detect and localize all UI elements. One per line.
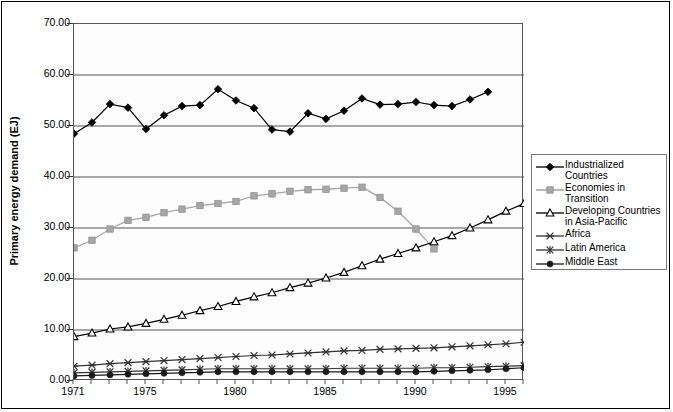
- data-point-filled-circle: [74, 373, 77, 379]
- series-2: [74, 200, 524, 340]
- data-point-filled-circle: [341, 369, 347, 375]
- y-axis-title-label: Primary energy demand (EJ): [8, 116, 20, 265]
- data-point-filled-square: [395, 208, 401, 214]
- legend-label: Middle East: [565, 256, 617, 267]
- data-point-filled-square: [287, 188, 293, 194]
- data-point-filled-square: [431, 246, 437, 252]
- legend-item-0[interactable]: Industrialized Countries: [535, 159, 663, 181]
- data-point-filled-diamond: [340, 107, 348, 115]
- data-point-filled-square: [413, 226, 419, 232]
- data-point-filled-diamond: [376, 101, 384, 109]
- x-axis-tick-labels: 197119751980198519901995: [2, 385, 562, 401]
- y-tick-label: 40.00: [26, 170, 70, 180]
- legend-marker-filled-diamond-icon: [535, 159, 565, 172]
- data-point-filled-diamond: [232, 97, 240, 105]
- x-tick-label: 1980: [215, 385, 255, 397]
- chart-canvas: [74, 24, 524, 381]
- data-point-star-x: [466, 342, 474, 349]
- x-tick-label: 1995: [485, 385, 525, 397]
- data-point-star-x: [376, 346, 384, 353]
- data-point-filled-circle: [251, 369, 257, 375]
- data-point-open-triangle: [502, 207, 510, 214]
- data-point-filled-diamond: [448, 102, 456, 110]
- data-point-star-x: [412, 345, 420, 352]
- data-point-star-x: [358, 347, 366, 354]
- data-point-filled-circle: [503, 366, 509, 372]
- data-point-filled-square: [323, 186, 329, 192]
- data-point-filled-diamond: [322, 115, 330, 123]
- data-point-star-x: [448, 343, 456, 350]
- data-point-open-triangle: [520, 200, 524, 207]
- data-point-filled-diamond: [466, 96, 474, 104]
- data-point-star-x: [484, 341, 492, 348]
- y-tick-label: 30.00: [26, 221, 70, 231]
- data-point-star-x: [304, 350, 312, 357]
- legend-item-5[interactable]: Middle East: [535, 256, 663, 269]
- legend-marker-asterisk-icon: [535, 242, 565, 255]
- data-point-filled-circle: [485, 367, 491, 373]
- data-point-star-x: [214, 354, 222, 361]
- x-tick-label: 1975: [125, 385, 165, 397]
- legend-marker-filled-circle-icon: [535, 256, 565, 269]
- legend-label: Latin America: [565, 242, 626, 253]
- data-point-filled-square: [269, 191, 275, 197]
- data-point-filled-circle: [467, 367, 473, 373]
- legend-marker-open-triangle-icon: [535, 205, 565, 218]
- data-point-filled-circle: [143, 371, 149, 377]
- y-tick-label: 70.00: [26, 17, 70, 27]
- data-point-open-triangle: [484, 216, 492, 223]
- data-point-filled-square: [341, 185, 347, 191]
- legend-label: Economies in Transition: [565, 182, 663, 204]
- data-point-filled-square: [233, 198, 239, 204]
- data-point-filled-circle: [377, 369, 383, 375]
- y-tick-label: 10.00: [26, 323, 70, 333]
- legend-item-1[interactable]: Economies in Transition: [535, 182, 663, 204]
- data-point-star-x: [546, 233, 554, 240]
- series-3: [74, 339, 524, 370]
- data-point-filled-square: [377, 194, 383, 200]
- data-point-filled-circle: [269, 369, 275, 375]
- data-point-filled-circle: [413, 369, 419, 375]
- data-point-filled-square: [143, 214, 149, 220]
- data-point-open-triangle: [448, 232, 456, 239]
- data-point-filled-diamond: [546, 163, 554, 171]
- data-point-filled-circle: [89, 372, 95, 378]
- series-0: [74, 85, 492, 137]
- data-point-star-x: [160, 357, 168, 364]
- data-point-filled-circle: [215, 369, 221, 375]
- legend-label: Industrialized Countries: [565, 159, 663, 181]
- data-point-filled-square: [107, 226, 113, 232]
- legend-label: Developing Countries in Asia-Pacific: [565, 205, 661, 227]
- data-point-filled-circle: [107, 372, 113, 378]
- data-point-star-x: [286, 351, 294, 358]
- series-1: [74, 184, 437, 252]
- chart-legend: Industrialized CountriesEconomies in Tra…: [531, 154, 667, 270]
- data-point-filled-square: [305, 187, 311, 193]
- data-point-filled-square: [161, 210, 167, 216]
- legend-item-4[interactable]: Latin America: [535, 242, 663, 255]
- legend-marker-star-x-icon: [535, 228, 565, 241]
- chart-figure: Primary energy demand (EJ) 0.0010.0020.0…: [1, 1, 670, 409]
- x-tick-label: 1990: [395, 385, 435, 397]
- y-tick-label: 60.00: [26, 68, 70, 78]
- data-point-filled-circle: [125, 371, 131, 377]
- data-point-star-x: [178, 356, 186, 363]
- legend-item-2[interactable]: Developing Countries in Asia-Pacific: [535, 205, 663, 227]
- data-point-filled-diamond: [178, 102, 186, 110]
- y-axis-title: Primary energy demand (EJ): [4, 2, 24, 380]
- data-point-filled-circle: [359, 369, 365, 375]
- data-point-star-x: [88, 362, 96, 369]
- legend-label: Africa: [565, 228, 591, 239]
- data-point-filled-circle: [323, 369, 329, 375]
- y-tick-label: 50.00: [26, 119, 70, 129]
- data-point-star-x: [502, 340, 510, 347]
- legend-item-3[interactable]: Africa: [535, 228, 663, 241]
- data-point-star-x: [430, 344, 438, 351]
- x-axis-ticks: [2, 379, 562, 386]
- data-point-star-x: [124, 359, 132, 366]
- data-point-filled-circle: [197, 369, 203, 375]
- data-point-filled-square: [179, 206, 185, 212]
- data-point-filled-diamond: [412, 98, 420, 106]
- data-point-star-x: [232, 353, 240, 360]
- data-point-star-x: [142, 358, 150, 365]
